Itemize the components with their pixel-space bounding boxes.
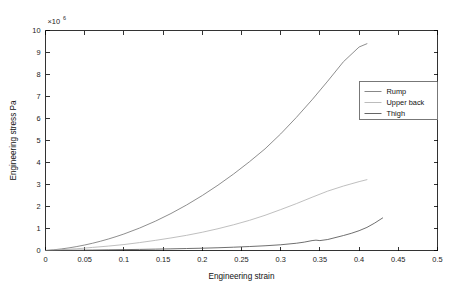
y-tick-label: 9 xyxy=(36,48,40,57)
series-line-rump xyxy=(46,44,367,251)
y-tick-label: 6 xyxy=(36,114,40,123)
y-axis-exponent: ×10 xyxy=(48,17,61,26)
series-line-upper-back xyxy=(46,180,367,251)
y-tick-label: 7 xyxy=(36,92,40,101)
x-tick-label: 0.25 xyxy=(234,255,248,264)
y-tick-label: 0 xyxy=(36,246,40,255)
legend-label: Upper back xyxy=(387,98,425,107)
x-tick-label: 0 xyxy=(43,255,47,264)
chart-legend: RumpUpper backThigh xyxy=(360,82,438,120)
x-tick-label: 0.45 xyxy=(391,255,405,264)
x-tick-label: 0.1 xyxy=(119,255,129,264)
y-tick-label: 8 xyxy=(36,70,40,79)
x-tick-label: 0.4 xyxy=(354,255,364,264)
line-chart: 00.050.10.150.20.250.30.350.40.450.50123… xyxy=(0,0,457,287)
legend-label: Rump xyxy=(387,87,407,96)
x-tick-label: 0.3 xyxy=(276,255,286,264)
y-tick-label: 2 xyxy=(36,202,40,211)
y-axis-exponent-power: 6 xyxy=(63,15,66,21)
legend-label: Thigh xyxy=(387,109,406,118)
axes: 00.050.10.150.20.250.30.350.40.450.50123… xyxy=(32,15,442,264)
x-axis-title: Engineering strain xyxy=(209,272,275,281)
series-line-thigh xyxy=(46,218,383,251)
x-tick-label: 0.15 xyxy=(156,255,170,264)
plot-box-border xyxy=(46,31,438,251)
axis-titles: Engineering strainEngineering stress Pa xyxy=(9,100,275,280)
y-tick-label: 5 xyxy=(36,136,40,145)
x-tick-label: 0.35 xyxy=(313,255,327,264)
x-tick-label: 0.2 xyxy=(197,255,207,264)
y-tick-label: 1 xyxy=(36,224,40,233)
y-tick-label: 4 xyxy=(36,158,40,167)
y-tick-label: 3 xyxy=(36,180,40,189)
y-tick-label: 10 xyxy=(32,26,40,35)
data-series-group xyxy=(46,44,383,251)
x-tick-label: 0.05 xyxy=(78,255,92,264)
x-tick-label: 0.5 xyxy=(432,255,442,264)
chart-figure: 00.050.10.150.20.250.30.350.40.450.50123… xyxy=(0,0,457,287)
y-axis-title: Engineering stress Pa xyxy=(9,100,18,181)
